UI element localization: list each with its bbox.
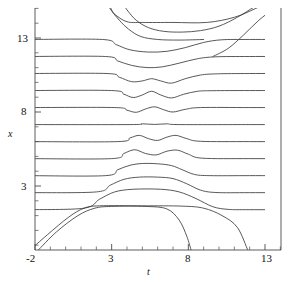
plot-canvas [0, 0, 289, 283]
curve-trace-10-broad-bump [29, 163, 289, 176]
soliton-waterfall-figure: 13 8 3 -2 3 8 13 x t [0, 0, 289, 283]
y-tick-label-3: 3 [21, 180, 27, 192]
y-tick-label-13: 13 [17, 32, 28, 44]
axes-group [35, 8, 281, 250]
curve-trace-11-plateau-bump [29, 177, 289, 193]
curve-trace-4-double-well [29, 73, 289, 83]
curve-trace-9-merging-bumps [29, 150, 289, 159]
curve-trace-14-bottom-kink-steep [37, 206, 191, 251]
curve-trace-16-top-descending-kink-b [120, 0, 268, 32]
curve-trace-6-shallow-wells [29, 107, 289, 113]
y-tick-label-8: 8 [21, 105, 27, 117]
curve-group [29, 0, 289, 251]
curve-trace-1-top-kink-pair [29, 0, 274, 23]
y-axis-title: x [8, 128, 12, 139]
curve-trace-12-wide-plateau [29, 189, 289, 210]
x-tick-label-8: 8 [185, 252, 191, 264]
curve-trace-8-twin-bumps [29, 135, 289, 142]
curve-trace-3-well [29, 56, 289, 68]
x-tick-label-13: 13 [261, 252, 272, 264]
curve-trace-15-top-descending-kink-a [105, 0, 204, 40]
x-tick-label-minus2: -2 [26, 252, 35, 264]
x-tick-label-3: 3 [108, 252, 114, 264]
curve-trace-5-split-well [29, 90, 289, 98]
curve-trace-13-bottom-kink-plateau [29, 206, 248, 251]
x-axis-title: t [147, 266, 150, 277]
curve-trace-2-deep-well [29, 39, 289, 52]
curve-trace-17-top-right-ascending [213, 0, 287, 56]
curve-trace-7-neutral [29, 124, 289, 125]
